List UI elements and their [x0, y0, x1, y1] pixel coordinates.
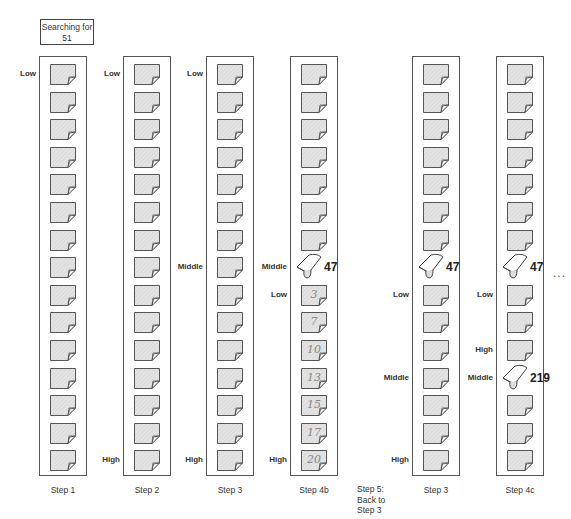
card [50, 257, 76, 278]
card [50, 423, 76, 444]
card-icon [423, 395, 449, 416]
card-value: 47 [530, 260, 543, 274]
card-icon [217, 119, 243, 140]
card-icon [507, 92, 533, 113]
card: 7 [301, 312, 327, 333]
handwritten-value: 3 [301, 285, 327, 306]
card [423, 119, 449, 140]
flipped-card [417, 253, 447, 281]
card-icon [217, 92, 243, 113]
card-icon [134, 368, 160, 389]
card-icon [301, 174, 327, 195]
card [507, 450, 533, 471]
card-icon [301, 64, 327, 85]
card-icon [217, 423, 243, 444]
step5-line3: Step 3 [357, 505, 385, 516]
card-icon [134, 202, 160, 223]
card-icon [50, 450, 76, 471]
pointer-label-low: Low [0, 69, 36, 78]
card-value: 47 [446, 260, 459, 274]
card [134, 92, 160, 113]
pointer-label-high: High [363, 455, 409, 464]
card [507, 340, 533, 361]
card: 15 [301, 395, 327, 416]
pointer-label-high: High [241, 455, 287, 464]
card-icon [301, 202, 327, 223]
card [301, 202, 327, 223]
pointer-label-low: Low [363, 290, 409, 299]
card-icon [134, 119, 160, 140]
card [423, 202, 449, 223]
card [217, 174, 243, 195]
card [423, 285, 449, 306]
card [217, 312, 243, 333]
card-icon [423, 312, 449, 333]
card [217, 230, 243, 251]
card [217, 450, 243, 471]
search-target-value: 51 [41, 33, 93, 44]
pointer-label-low: Low [447, 290, 493, 299]
card-icon [134, 285, 160, 306]
card-icon [134, 340, 160, 361]
card-value: 47 [324, 260, 337, 274]
flipped-card-icon [501, 253, 531, 281]
handwritten-value: 10 [301, 340, 327, 361]
card [301, 147, 327, 168]
card-icon [50, 340, 76, 361]
card [423, 423, 449, 444]
card [507, 202, 533, 223]
card [50, 92, 76, 113]
card [50, 368, 76, 389]
pointer-label-middle: Middle [447, 373, 493, 382]
flipped-card [501, 253, 531, 281]
card [50, 312, 76, 333]
card [134, 202, 160, 223]
card-icon [423, 92, 449, 113]
card [423, 368, 449, 389]
card [50, 119, 76, 140]
step5-line2: Back to [357, 495, 385, 506]
card [134, 340, 160, 361]
flipped-card [295, 253, 325, 281]
card [423, 147, 449, 168]
card: 3 [301, 285, 327, 306]
pointer-label-middle: Middle [157, 262, 203, 271]
card [507, 230, 533, 251]
card-icon [423, 202, 449, 223]
card [50, 285, 76, 306]
card [217, 395, 243, 416]
card-icon [507, 174, 533, 195]
card-icon [134, 230, 160, 251]
card-icon [217, 368, 243, 389]
card [50, 174, 76, 195]
card-icon [507, 147, 533, 168]
card [507, 285, 533, 306]
card [507, 64, 533, 85]
pointer-label-high: High [157, 455, 203, 464]
card-icon [217, 285, 243, 306]
card-icon [50, 285, 76, 306]
card [134, 423, 160, 444]
card-icon [507, 340, 533, 361]
card-icon [507, 285, 533, 306]
card-icon [423, 147, 449, 168]
continuation-ellipsis: ... [553, 266, 566, 280]
card [507, 423, 533, 444]
card [134, 147, 160, 168]
card-icon [301, 119, 327, 140]
card [217, 64, 243, 85]
card-icon [301, 92, 327, 113]
card-icon [50, 147, 76, 168]
card-icon [50, 174, 76, 195]
step-caption: Step 1 [33, 485, 93, 495]
pointer-label-middle: Middle [363, 373, 409, 382]
card [217, 119, 243, 140]
card-icon [134, 174, 160, 195]
search-target-box: Searching for 51 [40, 19, 94, 45]
card-icon [507, 312, 533, 333]
card [301, 119, 327, 140]
pointer-label-low: Low [157, 69, 203, 78]
card [134, 285, 160, 306]
card-icon [507, 423, 533, 444]
card-icon [50, 64, 76, 85]
